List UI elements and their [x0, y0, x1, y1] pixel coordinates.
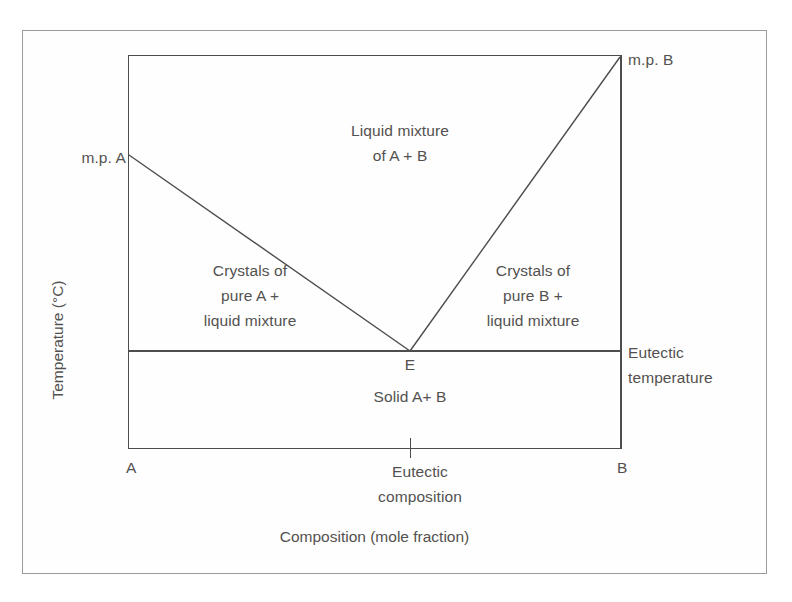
y-axis-title: Temperature (°C): [49, 280, 67, 399]
label-left-region-line2: pure A +: [175, 283, 325, 308]
label-melting-point-a: m.p. A: [40, 145, 126, 170]
x-axis-title: Composition (mole fraction): [128, 528, 621, 546]
label-right-region-line2: pure B +: [458, 283, 608, 308]
label-left-region-line3: liquid mixture: [175, 308, 325, 333]
phase-diagram-svg: [0, 0, 792, 602]
x-mid-tick-label-line1: Eutectic: [340, 459, 500, 484]
x-mid-tick-label-line2: composition: [340, 484, 500, 509]
label-right-region-line3: liquid mixture: [458, 308, 608, 333]
label-liquid-region-line1: Liquid mixture: [310, 118, 490, 143]
label-solid-region: Solid A+ B: [330, 384, 490, 409]
label-eutectic-temperature-line2: temperature: [628, 365, 713, 390]
label-eutectic-point-e: E: [395, 352, 425, 377]
label-liquid-region-line2: of A + B: [310, 143, 490, 168]
label-eutectic-temperature-line1: Eutectic: [628, 340, 684, 365]
x-tick-label-a: A: [126, 455, 136, 480]
label-left-region-line1: Crystals of: [175, 258, 325, 283]
phase-diagram-figure: m.p. A m.p. B Liquid mixture of A + B Cr…: [0, 0, 792, 602]
label-melting-point-b: m.p. B: [628, 47, 673, 72]
x-tick-label-b: B: [617, 455, 627, 480]
label-right-region-line1: Crystals of: [458, 258, 608, 283]
